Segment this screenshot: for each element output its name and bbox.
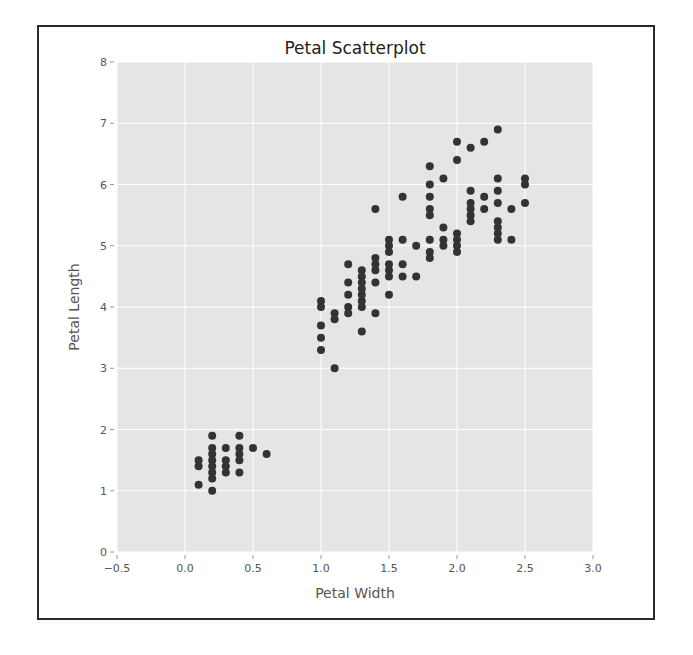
data-point xyxy=(494,174,502,182)
data-point xyxy=(426,254,434,262)
data-point xyxy=(399,272,407,280)
x-tick-label: 2.0 xyxy=(448,562,466,575)
y-tick-label: 0 xyxy=(100,546,107,559)
data-point xyxy=(344,309,352,317)
data-point xyxy=(385,291,393,299)
data-point xyxy=(426,236,434,244)
data-point xyxy=(439,174,447,182)
data-point xyxy=(426,211,434,219)
x-tick-label: 3.0 xyxy=(584,562,602,575)
data-point xyxy=(371,279,379,287)
data-point xyxy=(399,260,407,268)
x-tick-label: 1.0 xyxy=(312,562,330,575)
y-axis-ticks: 012345678 xyxy=(100,56,114,559)
data-point xyxy=(494,236,502,244)
data-point xyxy=(507,205,515,213)
data-point xyxy=(249,444,257,452)
x-axis-label: Petal Width xyxy=(315,585,395,601)
data-point xyxy=(263,450,271,458)
data-point xyxy=(521,199,529,207)
data-point xyxy=(453,156,461,164)
y-tick-label: 5 xyxy=(100,240,107,253)
data-point xyxy=(371,266,379,274)
y-tick-label: 8 xyxy=(100,56,107,69)
data-point xyxy=(317,321,325,329)
data-point xyxy=(358,303,366,311)
scatter-chart: Petal Scatterplot −0.50.00.51.01.52.02.5… xyxy=(0,0,693,655)
data-point xyxy=(371,309,379,317)
data-point xyxy=(453,248,461,256)
data-point xyxy=(426,162,434,170)
x-tick-label: −0.5 xyxy=(104,562,131,575)
data-point xyxy=(439,223,447,231)
data-point xyxy=(317,303,325,311)
data-point xyxy=(507,236,515,244)
x-tick-label: 0.5 xyxy=(244,562,262,575)
data-point xyxy=(358,328,366,336)
data-point xyxy=(412,272,420,280)
x-tick-label: 0.0 xyxy=(176,562,194,575)
data-point xyxy=(344,291,352,299)
y-tick-label: 7 xyxy=(100,117,107,130)
data-point xyxy=(521,181,529,189)
data-point xyxy=(399,236,407,244)
data-point xyxy=(480,138,488,146)
data-point xyxy=(235,456,243,464)
data-point xyxy=(222,468,230,476)
data-point xyxy=(235,468,243,476)
data-point xyxy=(317,334,325,342)
data-point xyxy=(344,260,352,268)
y-tick-label: 4 xyxy=(100,301,107,314)
data-point xyxy=(331,315,339,323)
data-point xyxy=(235,432,243,440)
data-point xyxy=(494,199,502,207)
x-tick-label: 2.5 xyxy=(516,562,534,575)
data-point xyxy=(399,193,407,201)
data-point xyxy=(480,205,488,213)
data-point xyxy=(331,364,339,372)
data-point xyxy=(467,187,475,195)
data-point xyxy=(439,242,447,250)
data-point xyxy=(480,193,488,201)
data-point xyxy=(208,487,216,495)
data-point xyxy=(222,444,230,452)
data-point xyxy=(195,462,203,470)
data-point xyxy=(467,217,475,225)
data-point xyxy=(317,346,325,354)
data-point xyxy=(426,193,434,201)
y-tick-label: 6 xyxy=(100,179,107,192)
data-point xyxy=(371,205,379,213)
data-point xyxy=(467,144,475,152)
y-tick-label: 3 xyxy=(100,362,107,375)
y-axis-label: Petal Length xyxy=(66,263,82,350)
data-point xyxy=(195,481,203,489)
y-tick-label: 1 xyxy=(100,485,107,498)
data-point xyxy=(426,181,434,189)
x-axis-ticks: −0.50.00.51.01.52.02.53.0 xyxy=(104,555,602,575)
data-point xyxy=(208,475,216,483)
x-tick-label: 1.5 xyxy=(380,562,398,575)
data-point xyxy=(385,248,393,256)
y-tick-label: 2 xyxy=(100,424,107,437)
data-point xyxy=(208,432,216,440)
data-point xyxy=(344,279,352,287)
chart-title: Petal Scatterplot xyxy=(284,38,426,58)
data-point xyxy=(385,272,393,280)
data-point xyxy=(494,125,502,133)
data-point xyxy=(494,187,502,195)
data-point xyxy=(453,138,461,146)
data-point xyxy=(412,242,420,250)
